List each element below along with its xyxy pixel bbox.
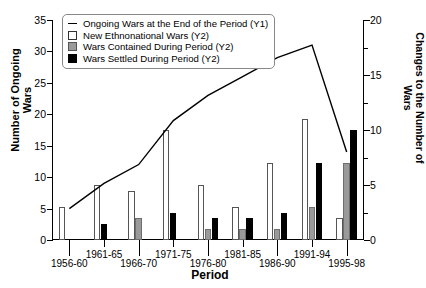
x-axis-title: Period [0,268,420,282]
y-axis-left-tick-label: 20 [34,108,46,120]
x-axis-tick-label: 1956-60 [51,258,88,269]
y-axis-left-tick-label: 5 [40,203,46,215]
white-square-icon [68,31,77,40]
tick-mark [364,48,368,49]
x-axis-tick-label: 1995-98 [328,258,365,269]
tick-mark [364,213,368,214]
line-path [69,45,346,208]
x-axis-tick-mark [312,240,313,247]
y-axis-right-tick-label: 10 [370,124,382,136]
tick-mark [364,103,368,104]
tick-mark [47,240,53,241]
x-axis-tick-label: 1991-94 [294,249,331,260]
x-axis-tick-mark [69,240,70,256]
y-axis-left-tick-label: 25 [34,77,46,89]
legend-item-new-wars: New Ethnonational Wars (Y2) [68,30,268,42]
gray-square-icon [68,42,77,51]
y-axis-right-tick-label: 5 [370,179,376,191]
x-axis-tick-mark [139,240,140,256]
legend-label: New Ethnonational Wars (Y2) [83,30,209,41]
y-axis-right-tick-label: 15 [370,69,382,81]
x-axis-tick-mark [277,240,278,256]
x-axis-tick-mark [104,240,105,247]
x-axis-tick-label: 1986-90 [259,258,296,269]
legend-label: Wars Settled During Period (Y2) [83,53,220,64]
tick-mark [364,158,368,159]
y-axis-right-title: Changes to the Number of Wars [402,28,426,168]
line-marker-icon [68,23,77,24]
x-axis-tick-label: 1971-75 [155,249,192,260]
x-axis-tick-mark [347,240,348,256]
black-square-icon [68,54,77,63]
chart-legend: Ongoing Wars at the End of the Period (Y… [62,14,275,69]
y-axis-left-title: Number of Ongoing Wars [9,35,33,165]
x-axis-tick-label: 1981-85 [224,249,261,260]
y-axis-left-tick-label: 0 [40,234,46,246]
legend-item-contained-wars: Wars Contained During Period (Y2) [68,41,268,53]
legend-label: Ongoing Wars at the End of the Period (Y… [83,18,268,29]
x-axis-tick-mark [173,240,174,247]
legend-label: Wars Contained During Period (Y2) [83,41,234,52]
legend-item-ongoing-wars: Ongoing Wars at the End of the Period (Y… [68,18,268,30]
y-axis-left-tick-label: 10 [34,171,46,183]
x-axis-tick-label: 1966-70 [120,258,157,269]
y-axis-right-tick-label: 20 [370,14,382,26]
x-axis-tick-label: 1976-80 [190,258,227,269]
legend-item-settled-wars: Wars Settled During Period (Y2) [68,53,268,65]
y-axis-left-tick-label: 35 [34,14,46,26]
y-axis-left-tick-label: 15 [34,140,46,152]
y-axis-left-tick-label: 30 [34,45,46,57]
y-axis-right-tick-label: 0 [370,234,376,246]
x-axis-tick-label: 1961-65 [86,249,123,260]
x-axis-tick-mark [208,240,209,256]
x-axis-tick-mark [243,240,244,247]
